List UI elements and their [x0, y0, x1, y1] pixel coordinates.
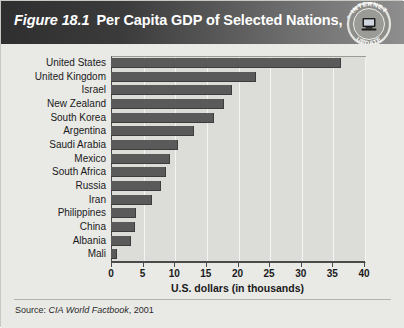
bar[interactable]	[111, 195, 152, 205]
category-label: South Africa	[1, 165, 106, 179]
x-axis-tick-label: 25	[264, 268, 275, 279]
x-axis-tick-label: 10	[169, 268, 180, 279]
x-axis-tick	[301, 263, 302, 267]
bar[interactable]	[111, 249, 117, 259]
bar[interactable]	[111, 72, 256, 82]
x-axis-tick-label: 20	[232, 268, 243, 279]
bar-row	[111, 234, 364, 248]
x-axis-tick	[174, 263, 175, 267]
category-label: United Kingdom	[1, 70, 106, 84]
page-title: Figure 18.1Per Capita GDP of Selected Na…	[14, 12, 378, 28]
category-label: Russia	[1, 179, 106, 193]
bar[interactable]	[111, 208, 136, 218]
bar[interactable]	[111, 85, 232, 95]
seal-icon: INTERNET UPDATE	[340, 2, 398, 44]
source-title: CIA World Factbook	[49, 305, 129, 315]
bar[interactable]	[111, 126, 194, 136]
bar[interactable]	[111, 140, 178, 150]
bar[interactable]	[111, 236, 131, 246]
gridline	[365, 57, 366, 262]
bar-row	[111, 206, 364, 220]
bar-row	[111, 138, 364, 152]
bar-row	[111, 124, 364, 138]
category-label: Saudi Arabia	[1, 138, 106, 152]
bar[interactable]	[111, 154, 170, 164]
bar[interactable]	[111, 113, 214, 123]
category-label: Israel	[1, 83, 106, 97]
x-axis-tick-label: 35	[327, 268, 338, 279]
internet-update-seal[interactable]: INTERNET UPDATE	[340, 2, 398, 44]
x-axis-tick	[206, 263, 207, 267]
x-axis-tick	[111, 263, 112, 267]
bar-row	[111, 83, 364, 97]
x-axis-tick	[238, 263, 239, 267]
category-label: Mali	[1, 247, 106, 261]
category-label: China	[1, 220, 106, 234]
bar-row	[111, 70, 364, 84]
bar-row	[111, 165, 364, 179]
category-label: Argentina	[1, 124, 106, 138]
x-axis-tick	[143, 263, 144, 267]
x-axis-tick-label: 15	[200, 268, 211, 279]
figure-title-bar: Figure 18.1Per Capita GDP of Selected Na…	[1, 1, 404, 44]
category-label: Philippines	[1, 206, 106, 220]
bar-row	[111, 152, 364, 166]
category-label: Mexico	[1, 152, 106, 166]
x-axis-tick	[332, 263, 333, 267]
x-axis-tick-label: 30	[295, 268, 306, 279]
bar-row	[111, 97, 364, 111]
category-label: Iran	[1, 193, 106, 207]
source-note: Source: CIA World Factbook, 2001	[15, 305, 154, 315]
x-axis-tick-label: 40	[358, 268, 369, 279]
bar[interactable]	[111, 222, 135, 232]
source-year: , 2001	[129, 305, 154, 315]
bar-row	[111, 247, 364, 261]
x-axis-tick	[364, 263, 365, 267]
x-axis-tick	[269, 263, 270, 267]
bar-row	[111, 56, 364, 70]
bar-row	[111, 193, 364, 207]
x-axis-tick-label: 5	[140, 268, 146, 279]
bar[interactable]	[111, 99, 224, 109]
source-divider	[14, 299, 391, 300]
figure-number: Figure 18.1	[14, 12, 89, 28]
source-prefix: Source:	[15, 305, 46, 315]
bar[interactable]	[111, 167, 166, 177]
category-axis-labels: United StatesUnited KingdomIsraelNew Zea…	[1, 56, 106, 261]
bar-row	[111, 111, 364, 125]
bar[interactable]	[111, 58, 341, 68]
x-axis-title: U.S. dollars (in thousands)	[111, 282, 364, 294]
category-label: New Zealand	[1, 97, 106, 111]
bars-layer	[111, 56, 364, 261]
x-axis-tick-label: 0	[108, 268, 114, 279]
category-label: Albania	[1, 234, 106, 248]
category-label: United States	[1, 56, 106, 70]
figure-title-text: Per Capita GDP of Selected Nations, 2000	[96, 12, 378, 28]
chart-panel: United StatesUnited KingdomIsraelNew Zea…	[1, 44, 404, 328]
bar-row	[111, 179, 364, 193]
bar[interactable]	[111, 181, 161, 191]
bar-row	[111, 220, 364, 234]
category-label: South Korea	[1, 111, 106, 125]
